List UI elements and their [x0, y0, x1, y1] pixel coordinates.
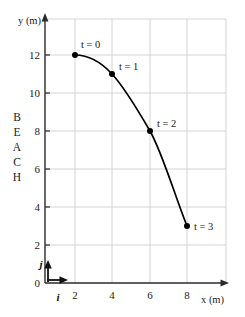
plot-background [0, 0, 245, 317]
y-tick-label-4: 4 [35, 201, 41, 213]
data-point-label-t1: t = 1 [119, 61, 138, 72]
x-tick-label-8: 8 [184, 289, 190, 301]
beach-letter-c: C [13, 156, 21, 168]
beach-letter-b: B [13, 111, 21, 123]
y-tick-label-6: 6 [35, 163, 41, 175]
beach-region-label: B E A C H [13, 111, 22, 183]
trajectory-plot-svg: 12 10 8 6 4 2 0 2 4 6 8 y (m) x (m) B E … [0, 0, 245, 317]
data-point-t0 [72, 52, 78, 58]
data-point-t2 [147, 128, 153, 134]
x-tick-label-2: 2 [72, 289, 78, 301]
x-tick-label-4: 4 [109, 289, 115, 301]
data-point-label-t0: t = 0 [81, 39, 100, 50]
data-point-label-t3: t = 3 [194, 221, 213, 232]
beach-letter-h: H [13, 171, 21, 183]
beach-letter-a: A [13, 141, 22, 153]
data-point-t1 [109, 71, 115, 77]
data-point-label-t2: t = 2 [157, 118, 176, 129]
y-tick-label-8: 8 [35, 125, 41, 137]
physics-trajectory-figure: 12 10 8 6 4 2 0 2 4 6 8 y (m) x (m) B E … [0, 0, 245, 317]
beach-letter-e: E [13, 126, 20, 138]
x-axis-title: x (m) [201, 294, 225, 306]
x-tick-label-0: 0 [35, 277, 41, 289]
y-axis-title: y (m) [18, 15, 42, 27]
y-tick-label-12: 12 [29, 49, 40, 61]
x-tick-label-6: 6 [147, 289, 153, 301]
data-point-t3 [184, 223, 190, 229]
y-tick-label-10: 10 [29, 87, 41, 99]
y-tick-label-2: 2 [35, 239, 41, 251]
